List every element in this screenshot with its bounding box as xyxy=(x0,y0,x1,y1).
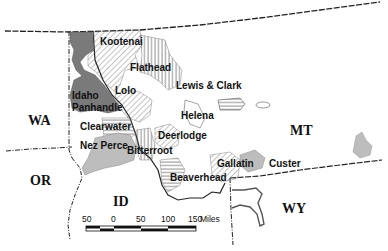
state-label-or: OR xyxy=(30,173,52,188)
wa-or-border xyxy=(6,147,72,151)
yellowstone-outline xyxy=(232,188,264,226)
or-id-border xyxy=(68,158,82,240)
canada-border xyxy=(5,2,380,32)
scale-tick-label: 50 xyxy=(82,214,92,224)
scale-tick-label: 50 xyxy=(136,214,146,224)
forest-custer-east xyxy=(353,132,372,158)
state-label-wy: WY xyxy=(282,201,306,216)
id-wy-border xyxy=(230,178,233,245)
scale-tick-label: 0 xyxy=(111,214,116,224)
forest-label: Idaho xyxy=(72,90,99,101)
forest-map: WAORIDMTWY KootenaiFlatheadLewis & Clark… xyxy=(0,0,388,251)
forest-lewis-clark-small xyxy=(256,102,270,108)
forest-label: Clearwater xyxy=(80,121,131,132)
forest-label: Helena xyxy=(181,110,214,121)
state-label-wa: WA xyxy=(28,113,51,128)
forest-label: Gallatin xyxy=(217,158,254,169)
forest-label: Lewis & Clark xyxy=(176,80,242,91)
scale-unit-label: Miles xyxy=(200,214,220,224)
forest-label: Deerlodge xyxy=(158,130,207,141)
forest-label: Kootenai xyxy=(100,36,143,47)
forest-label: Custer xyxy=(269,158,301,169)
forest-label: Bitterroot xyxy=(127,145,173,156)
forest-label: Nez Perce xyxy=(80,140,128,151)
scale-tick-label: 100 xyxy=(161,214,175,224)
forest-label: Panhandle xyxy=(72,102,123,113)
state-label-id: ID xyxy=(113,194,129,209)
forest-label: Beaverhead xyxy=(170,172,227,183)
forest-label: Flathead xyxy=(130,62,171,73)
scale-bar: 50050100150Miles xyxy=(82,214,220,231)
forest-label: Lolo xyxy=(115,85,136,96)
forest-lewis-clark xyxy=(218,98,245,110)
state-label-mt: MT xyxy=(290,123,313,138)
